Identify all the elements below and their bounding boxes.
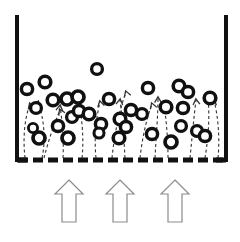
fluidized-bed-figure — [0, 0, 240, 242]
gas-inlet-arrow — [106, 180, 134, 222]
particle-ring — [83, 108, 95, 120]
particle-ring — [165, 136, 177, 148]
particle-ring — [21, 83, 32, 94]
particle — [47, 94, 59, 106]
particle-ring — [39, 76, 51, 88]
particle — [31, 103, 42, 114]
particle — [33, 132, 45, 144]
particle-ring — [176, 121, 187, 132]
gas-streamline — [44, 110, 60, 158]
particle — [177, 102, 188, 113]
particle-ring — [103, 93, 114, 104]
particle — [72, 91, 84, 103]
particle-ring — [52, 120, 63, 131]
particle-ring — [72, 91, 84, 103]
particle-ring — [120, 121, 131, 132]
particle-ring — [33, 132, 45, 144]
particle — [125, 104, 136, 115]
particle-ring — [182, 86, 193, 97]
gas-inlet-arrow — [161, 180, 189, 222]
particle — [39, 76, 51, 88]
particle — [146, 128, 157, 139]
particle — [176, 121, 187, 132]
particle — [165, 136, 177, 148]
particle — [113, 132, 125, 144]
particle-ring — [113, 132, 125, 144]
fluidized-bed-canvas — [0, 0, 240, 242]
particle — [137, 109, 148, 120]
particle-ring — [92, 64, 103, 75]
particle — [103, 93, 114, 104]
particle-ring — [177, 102, 188, 113]
particle — [160, 101, 172, 113]
particle-ring — [47, 94, 59, 106]
particle-ring — [94, 128, 104, 138]
particle — [92, 64, 103, 75]
particle-ring — [204, 92, 216, 104]
particle — [62, 132, 74, 144]
particle-ring — [142, 82, 153, 93]
particle — [94, 128, 104, 138]
particle — [83, 108, 95, 120]
gas-streamline — [214, 100, 219, 158]
particle — [204, 92, 216, 104]
particle-ring — [137, 109, 148, 120]
particle-ring — [62, 132, 74, 144]
particle — [120, 121, 131, 132]
particle-ring — [125, 104, 136, 115]
particle-ring — [160, 101, 172, 113]
particle-ring — [31, 103, 42, 114]
particle — [21, 83, 32, 94]
inlet-arrow-group — [55, 180, 189, 222]
streamline-arrowhead — [122, 90, 130, 98]
particle — [142, 82, 153, 93]
particle-ring — [146, 128, 157, 139]
particle — [182, 86, 193, 97]
streamline-arrowhead — [148, 102, 156, 110]
particle — [199, 130, 210, 141]
gas-streamline — [205, 98, 209, 158]
gas-inlet-arrow — [55, 180, 83, 222]
particle-ring — [199, 130, 210, 141]
particle — [52, 120, 63, 131]
